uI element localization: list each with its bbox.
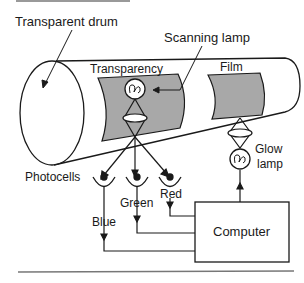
label-computer: Computer bbox=[213, 225, 270, 238]
glow-lamp bbox=[230, 149, 250, 169]
label-glow-lamp-line1: Glow bbox=[255, 143, 282, 156]
label-transparency: Transparency bbox=[90, 63, 163, 76]
photocell-green bbox=[126, 174, 148, 187]
drum-pointer bbox=[42, 30, 72, 88]
photocell-blue bbox=[93, 174, 115, 187]
label-red: Red bbox=[160, 188, 182, 201]
label-glow-lamp-line2: lamp bbox=[257, 158, 283, 171]
label-scanning-lamp: Scanning lamp bbox=[164, 31, 250, 44]
label-transparent-drum: Transparent drum bbox=[15, 15, 118, 28]
label-film: Film bbox=[220, 61, 243, 74]
label-blue: Blue bbox=[92, 216, 116, 229]
label-photocells: Photocells bbox=[25, 171, 80, 184]
scanning-lamp bbox=[125, 79, 145, 99]
label-green: Green bbox=[120, 197, 153, 210]
bottom-rule bbox=[18, 271, 294, 272]
film-sheet bbox=[208, 73, 265, 119]
light-rays bbox=[101, 137, 169, 179]
photocell-red bbox=[159, 174, 181, 187]
